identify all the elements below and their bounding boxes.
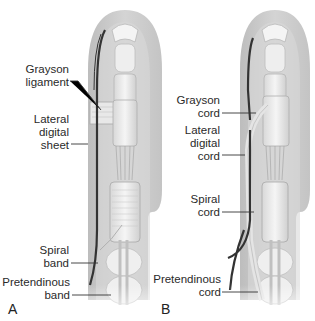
label-grayson-cord: Grayson cord (177, 94, 220, 120)
label-lateral-digital-cord: Lateral digital cord (185, 124, 220, 163)
metacarpal-head (257, 248, 293, 276)
panel-label-b: B (161, 301, 170, 317)
tendon-sheath-middle (263, 96, 289, 146)
middle-phalanx (265, 44, 285, 72)
middle-phalanx (115, 44, 135, 72)
tendon-sheath-middle (113, 100, 137, 146)
label-spiral-band: Spiral band (40, 244, 69, 270)
distal-phalanx (262, 24, 288, 42)
metacarpal-head (106, 248, 142, 276)
panel-b (228, 10, 315, 321)
tendon-upper (114, 74, 136, 104)
label-pretendinous-band: Pretendinous band (2, 276, 70, 302)
label-spiral-cord: Spiral cord (191, 193, 220, 219)
label-lateral-digital-sheet: Lateral digital sheet (34, 113, 69, 152)
label-grayson-ligament: Grayson ligament (26, 63, 69, 89)
panel-label-a: A (8, 301, 17, 317)
pulley-sheath (262, 182, 288, 242)
pulley-sheath (110, 182, 140, 242)
distal-phalanx (112, 24, 138, 42)
label-pretendinous-cord: Pretendinous cord (153, 273, 221, 299)
